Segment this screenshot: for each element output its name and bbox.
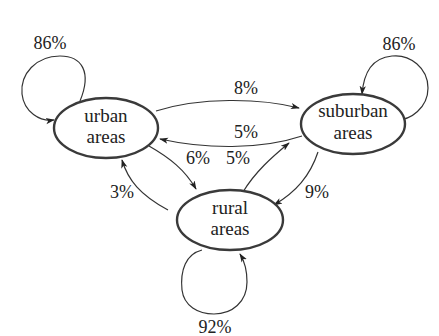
- node-rural-line2: areas: [210, 218, 249, 239]
- label-suburban-to-urban: 5%: [234, 122, 258, 142]
- node-suburban-line2: areas: [333, 122, 372, 143]
- label-rural-to-urban: 3%: [110, 182, 134, 202]
- node-suburban-line1: suburban: [318, 100, 388, 121]
- node-rural: rural areas: [177, 190, 283, 250]
- label-suburban-to-rural: 9%: [305, 182, 329, 202]
- edge-suburban-to-urban: [160, 136, 302, 147]
- label-rural-to-suburban: 5%: [226, 148, 250, 168]
- node-urban-line1: urban: [84, 105, 128, 126]
- edge-rural-self: [182, 250, 247, 314]
- label-urban-self: 86%: [34, 33, 67, 53]
- node-urban-line2: areas: [86, 126, 125, 147]
- edge-urban-to-suburban: [156, 100, 299, 111]
- label-suburban-self: 86%: [383, 34, 416, 54]
- label-urban-to-suburban: 8%: [234, 78, 258, 98]
- label-rural-self: 92%: [199, 317, 232, 336]
- node-urban: urban areas: [54, 98, 158, 158]
- label-urban-to-rural: 6%: [186, 148, 210, 168]
- node-rural-line1: rural: [212, 197, 248, 218]
- node-suburban: suburban areas: [301, 94, 405, 154]
- migration-diagram: urban areas suburban areas rural areas 8…: [0, 0, 439, 336]
